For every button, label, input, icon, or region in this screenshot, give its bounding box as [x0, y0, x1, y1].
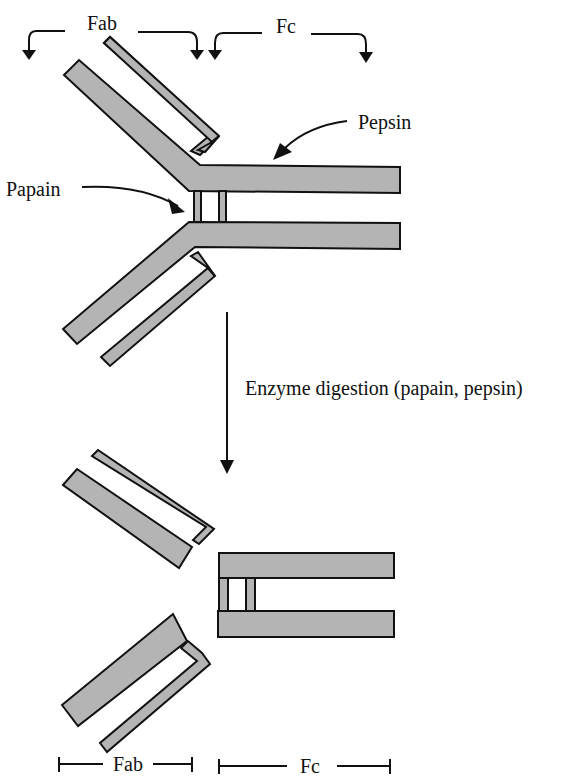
fab-lower-heavy-chain [62, 614, 187, 726]
down-arrow-icon [220, 460, 234, 474]
pepsin-annotation: Pepsin [273, 111, 411, 160]
fab-bracket-left [29, 31, 65, 52]
antibody-digestion-diagram: Fab Fc Papain Pepsin Enzyme digestion (p [0, 0, 580, 784]
bottom-fab-label: Fab [113, 753, 143, 775]
lower-heavy-chain [63, 222, 400, 344]
arrowhead-icon [168, 198, 185, 214]
fc-upper-chain [219, 553, 394, 578]
top-fc-label: Fc [276, 15, 296, 37]
hinge-disulfide-1 [194, 191, 201, 222]
bottom-fc-label: Fc [300, 755, 320, 777]
fc-bracket-left [215, 33, 262, 52]
fab-fragment-lower [62, 614, 210, 752]
bottom-region-brackets: Fab Fc [59, 753, 390, 777]
pepsin-pointer [285, 121, 347, 148]
fc-lower-chain [218, 611, 394, 637]
papain-label: Papain [6, 178, 60, 201]
fab-bracket-right [138, 32, 197, 52]
hinge-disulfide-2 [219, 191, 226, 222]
fab-fragment-upper [63, 450, 214, 568]
fab-upper-heavy-chain [63, 469, 192, 568]
papain-annotation: Papain [6, 178, 185, 214]
top-fab-label: Fab [87, 12, 117, 34]
papain-pointer [82, 187, 178, 206]
upper-heavy-chain [64, 60, 400, 193]
arrowhead-icon [190, 50, 204, 60]
pepsin-label: Pepsin [358, 111, 411, 134]
fc-fragment [218, 553, 394, 637]
top-region-brackets: Fab Fc [22, 12, 373, 63]
digestion-step: Enzyme digestion (papain, pepsin) [220, 312, 523, 474]
fc-disulfide-2 [246, 578, 255, 611]
arrowhead-icon [22, 50, 36, 60]
fc-bracket-right [311, 34, 366, 54]
fc-disulfide-1 [219, 578, 228, 611]
arrowhead-icon [208, 50, 222, 60]
intact-antibody [63, 37, 400, 366]
arrowhead-icon [359, 52, 373, 63]
digestion-label: Enzyme digestion (papain, pepsin) [245, 377, 523, 400]
